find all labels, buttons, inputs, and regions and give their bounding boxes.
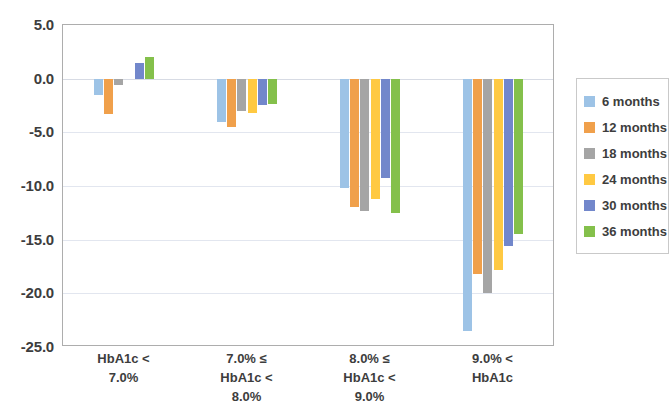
legend-item-label: 6 months bbox=[602, 94, 660, 109]
bar bbox=[217, 79, 226, 122]
bar-chart: 5.00.0-5.0-10.0-15.0-20.0-25.0 HbA1c < 7… bbox=[0, 0, 669, 416]
x-axis-category-label: 8.0% ≤ HbA1c < 9.0% bbox=[308, 350, 431, 407]
bar bbox=[258, 79, 267, 106]
legend-swatch-icon bbox=[584, 200, 595, 211]
plot-area bbox=[62, 24, 554, 346]
legend-swatch-icon bbox=[584, 122, 595, 133]
bar-group bbox=[432, 25, 555, 345]
legend-item-label: 12 months bbox=[602, 120, 667, 135]
bar bbox=[350, 79, 359, 208]
bar bbox=[381, 79, 390, 179]
bar bbox=[340, 79, 349, 188]
y-axis-tick-label: -5.0 bbox=[29, 123, 54, 140]
bar bbox=[494, 79, 503, 270]
bar-group bbox=[309, 25, 432, 345]
bar bbox=[371, 79, 380, 199]
legend-item[interactable]: 18 months bbox=[584, 140, 668, 166]
bar-group bbox=[63, 25, 186, 345]
bar bbox=[391, 79, 400, 213]
bar bbox=[104, 79, 113, 114]
legend-item-label: 30 months bbox=[602, 198, 667, 213]
bar bbox=[94, 79, 103, 95]
legend-item-label: 36 months bbox=[602, 224, 667, 239]
y-axis-tick-label: -15.0 bbox=[21, 230, 54, 247]
legend-swatch-icon bbox=[584, 148, 595, 159]
x-axis-category-label: 9.0% < HbA1c bbox=[431, 350, 554, 388]
chart-legend: 6 months12 months18 months24 months30 mo… bbox=[576, 78, 669, 254]
y-axis-tick-label: 0.0 bbox=[34, 69, 54, 86]
bar bbox=[483, 79, 492, 294]
legend-swatch-icon bbox=[584, 226, 595, 237]
bar bbox=[145, 57, 154, 78]
legend-swatch-icon bbox=[584, 174, 595, 185]
bar bbox=[463, 79, 472, 331]
bar bbox=[248, 79, 257, 113]
y-axis-tick-label: 5.0 bbox=[34, 16, 54, 33]
y-axis-tick-label: -10.0 bbox=[21, 177, 54, 194]
bar bbox=[114, 79, 123, 85]
legend-item-label: 24 months bbox=[602, 172, 667, 187]
x-axis-category-label: HbA1c < 7.0% bbox=[62, 350, 185, 388]
y-axis-tick-label: -20.0 bbox=[21, 284, 54, 301]
legend-item[interactable]: 6 months bbox=[584, 88, 668, 114]
legend-swatch-icon bbox=[584, 96, 595, 107]
bar-group bbox=[186, 25, 309, 345]
bar bbox=[135, 63, 144, 79]
legend-item[interactable]: 36 months bbox=[584, 218, 668, 244]
bar bbox=[227, 79, 236, 127]
legend-item[interactable]: 24 months bbox=[584, 166, 668, 192]
y-axis: 5.00.0-5.0-10.0-15.0-20.0-25.0 bbox=[0, 0, 60, 416]
x-axis-labels: HbA1c < 7.0%7.0% ≤ HbA1c < 8.0%8.0% ≤ Hb… bbox=[62, 350, 554, 416]
bar bbox=[360, 79, 369, 211]
bar bbox=[268, 79, 277, 105]
legend-item[interactable]: 30 months bbox=[584, 192, 668, 218]
bar bbox=[237, 79, 246, 111]
y-axis-tick-label: -25.0 bbox=[21, 338, 54, 355]
legend-item[interactable]: 12 months bbox=[584, 114, 668, 140]
legend-item-label: 18 months bbox=[602, 146, 667, 161]
bar bbox=[514, 79, 523, 235]
bar bbox=[504, 79, 513, 246]
bar bbox=[473, 79, 482, 274]
x-axis-category-label: 7.0% ≤ HbA1c < 8.0% bbox=[185, 350, 308, 407]
